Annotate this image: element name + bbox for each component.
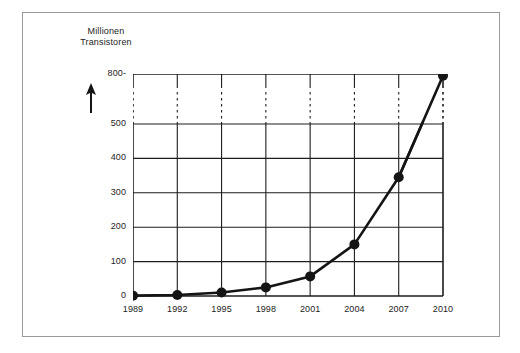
y-axis-tick-label: 100	[86, 256, 126, 266]
chart-canvas	[133, 74, 453, 306]
x-axis-tick-label: 2001	[290, 304, 330, 314]
x-axis-tick-label: 1998	[246, 304, 286, 314]
y-axis-tick-label: 800-	[86, 68, 126, 78]
x-axis-tick-label: 2010	[423, 304, 463, 314]
x-axis-tick-label: 2004	[334, 304, 374, 314]
x-axis-tick-label: 1995	[202, 304, 242, 314]
y-axis-title: Millionen Transistoren	[60, 26, 152, 48]
y-axis-tick-label: 0	[86, 290, 126, 300]
y-axis-tick-label: 500	[86, 118, 126, 128]
x-axis-tick-label: 2007	[379, 304, 419, 314]
y-axis-title-line2: Transistoren	[60, 37, 152, 48]
y-axis-title-line1: Millionen	[60, 26, 152, 37]
x-axis-tick-label: 1992	[157, 304, 197, 314]
y-axis-tick-label: 400	[86, 152, 126, 162]
up-arrow-icon	[83, 83, 99, 113]
y-axis-tick-label: 300	[86, 187, 126, 197]
figure-container: Millionen Transistoren 01002003004005008…	[0, 0, 520, 353]
y-axis-tick-label: 200	[86, 221, 126, 231]
chart-plot-area	[133, 74, 443, 296]
x-axis-tick-label: 1989	[113, 304, 153, 314]
